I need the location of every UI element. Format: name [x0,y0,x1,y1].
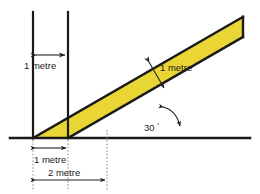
base-inner-label: 1 metre [34,154,66,165]
inclined-band-group [33,17,243,138]
top-gap-label: 1 metre [24,60,56,71]
angle-unit-label: ° [157,122,160,128]
diagram-canvas: 1 metre 1 metre 1 metre 2 metre 30 ° [0,0,260,194]
band-lower-edge [68,37,243,138]
top-gap-dimension: 1 metre [24,55,65,71]
band-width-label: 1 metre [160,62,192,73]
band-upper-edge [33,17,243,138]
inclined-plane-diagram: 1 metre 1 metre 1 metre 2 metre 30 ° [0,0,260,194]
angle-annotation: 30 ° [144,107,180,133]
curved-double-headed-arrow-icon [163,107,180,126]
base-outer-label: 2 metre [48,167,80,178]
base-inner-dimension: 1 metre [34,148,66,165]
base-outer-dimension: 2 metre [35,167,105,180]
angle-label: 30 [144,122,155,133]
